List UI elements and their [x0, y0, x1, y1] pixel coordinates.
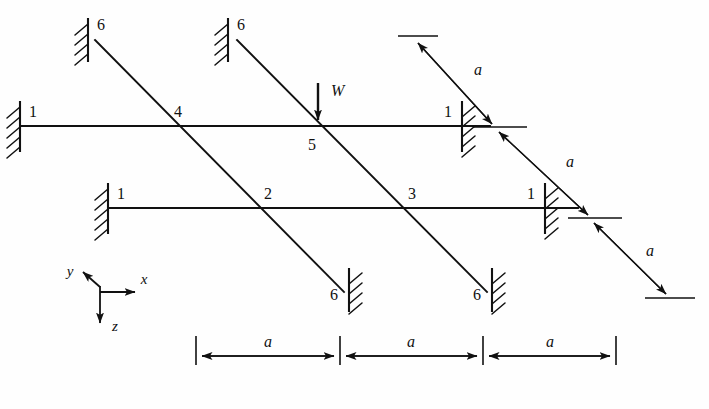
support-fixed-node1-lower-left	[95, 183, 108, 240]
node-label-1-lower-left: 1	[117, 185, 125, 202]
support-fixed-node1-lower-right	[545, 183, 558, 239]
diag-dim-label-3: a	[646, 242, 654, 259]
node-label-4: 3	[408, 185, 416, 202]
x-axis-label: x	[140, 271, 148, 287]
diag-dim-seg1-arrow-down	[418, 43, 492, 124]
members-group	[20, 40, 578, 292]
node-label-3: 4	[174, 103, 182, 120]
node-label-1-upper-right: 1	[444, 103, 452, 120]
z-axis-label: z	[111, 318, 118, 334]
bottom-dim-label-3: a	[546, 333, 554, 350]
node-label-1-upper-left: 1	[29, 103, 37, 120]
support-fixed-node6-top-right	[215, 18, 228, 65]
y-axis-arrow	[83, 272, 100, 287]
diag-dim-label-1: a	[474, 61, 482, 78]
node-label-5: 5	[308, 136, 316, 153]
node-label-6-top-right: 6	[237, 16, 245, 33]
node-label-2: 2	[264, 185, 272, 202]
bottom-dim-label-2: a	[407, 333, 415, 350]
structural-diagram: 1 1 1 1 6	[0, 0, 709, 409]
node-label-6-top-left: 6	[97, 16, 105, 33]
node-label-1-lower-right: 1	[527, 185, 535, 202]
diag-dim-label-2: a	[566, 153, 574, 170]
y-axis-label: y	[65, 263, 74, 279]
load-label-W: W	[331, 82, 346, 99]
support-fixed-node6-bottom-left	[349, 268, 362, 314]
node-label-6-bottom-left: 6	[330, 286, 338, 303]
support-fixed-node6-top-left	[75, 18, 88, 65]
diag-dim-seg2-arrow-down	[499, 132, 588, 215]
node-label-6-bottom-right: 6	[473, 286, 481, 303]
figure-root: 1 1 1 1 6	[0, 0, 709, 409]
diag-dim-seg3-arrow-down	[594, 223, 666, 294]
support-fixed-node6-bottom-right	[492, 268, 505, 314]
support-fixed-node1-upper-left	[7, 101, 20, 158]
coordinate-axes	[83, 272, 135, 323]
support-fixed-node1-upper-right	[462, 101, 475, 157]
bottom-dim-label-1: a	[264, 333, 272, 350]
diagonal-beam-1	[95, 40, 344, 292]
